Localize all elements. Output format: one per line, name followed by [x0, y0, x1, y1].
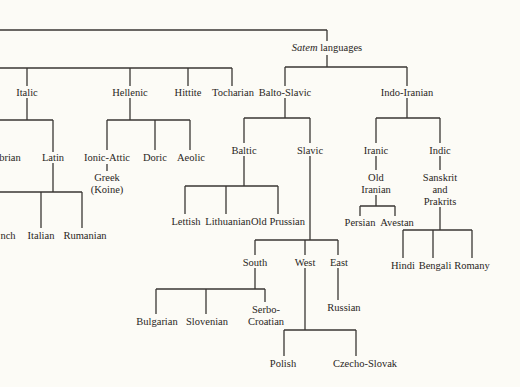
node-ionic-attic: Ionic-Attic — [84, 152, 130, 164]
node-romany: Romany — [454, 260, 490, 272]
node-italian: Italian — [28, 230, 55, 242]
node-hittite: Hittite — [175, 87, 202, 99]
node-hindi: Hindi — [391, 260, 415, 272]
satem-rest-label: languages — [320, 42, 362, 53]
node-bulgarian: Bulgarian — [136, 316, 177, 328]
satem-italic-label: Satem — [292, 42, 318, 53]
node-latin: Latin — [42, 152, 64, 164]
node-umbrian: brian — [0, 152, 21, 164]
node-bengali: Bengali — [419, 260, 452, 272]
node-greek-koine: Greek (Koine) — [91, 172, 124, 196]
node-old-prussian: Old Prussian — [251, 216, 305, 228]
node-italic: Italic — [16, 87, 38, 99]
node-west-slavic: West — [295, 257, 316, 269]
node-russian: Russian — [327, 302, 360, 314]
node-persian: Persian — [345, 217, 376, 229]
node-rumanian: Rumanian — [63, 230, 106, 242]
node-old-iranian: Old Iranian — [361, 172, 391, 196]
node-satem-languages: Satem languages — [292, 42, 362, 54]
node-balto-slavic: Balto-Slavic — [259, 87, 312, 99]
node-polish: Polish — [270, 358, 296, 370]
node-aeolic: Aeolic — [177, 152, 205, 164]
node-baltic: Baltic — [231, 145, 256, 157]
node-sanskrit-prakrits: Sanskrit and Prakrits — [423, 172, 457, 208]
node-indo-iranian: Indo-Iranian — [381, 87, 433, 99]
node-lettish: Lettish — [171, 216, 200, 228]
node-iranic: Iranic — [364, 145, 388, 157]
node-tocharian: Tocharian — [212, 87, 254, 99]
node-slavic: Slavic — [297, 145, 323, 157]
node-french: nch — [0, 230, 15, 242]
node-doric: Doric — [143, 152, 167, 164]
node-avestan: Avestan — [380, 217, 414, 229]
node-slovenian: Slovenian — [186, 316, 228, 328]
language-tree-diagram: Satem languages Italic Hellenic Hittite … — [0, 0, 520, 387]
node-east-slavic: East — [330, 257, 348, 269]
node-lithuanian: Lithuanian — [205, 216, 251, 228]
node-serbo-croatian: Serbo- Croatian — [248, 304, 284, 328]
node-south-slavic: South — [243, 257, 268, 269]
node-indic: Indic — [429, 145, 451, 157]
node-czecho-slovak: Czecho-Slovak — [333, 358, 397, 370]
node-hellenic: Hellenic — [112, 87, 148, 99]
